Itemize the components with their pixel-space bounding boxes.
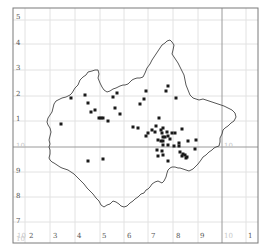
record-dot <box>143 98 146 101</box>
record-dot <box>112 96 115 99</box>
y-axis-label: 10 <box>16 236 25 243</box>
record-dot <box>137 127 140 130</box>
record-dot <box>162 144 165 147</box>
record-dot <box>167 160 170 163</box>
record-dot <box>145 90 148 93</box>
record-dot <box>107 120 110 123</box>
record-dot <box>94 109 97 112</box>
record-dot <box>154 131 157 134</box>
map-background <box>0 0 272 252</box>
record-dot <box>147 132 150 135</box>
record-dot <box>151 129 154 132</box>
y-axis-label: 4 <box>16 40 20 47</box>
distribution-map <box>0 0 272 252</box>
record-dot <box>165 90 168 93</box>
record-dot <box>139 103 142 106</box>
record-dot <box>157 139 160 142</box>
x-axis-label: 5 <box>102 233 106 240</box>
record-dot <box>162 140 165 143</box>
y-axis-label: 8 <box>16 193 20 200</box>
record-dot <box>181 128 184 131</box>
y-axis-label: 10 <box>16 143 25 150</box>
y-axis-label: 2 <box>16 91 20 98</box>
record-dot <box>70 97 73 100</box>
record-dot <box>155 125 158 128</box>
y-axis-label: 7 <box>16 218 20 225</box>
record-dot <box>167 85 170 88</box>
record-dot <box>116 92 119 95</box>
record-dot <box>194 148 197 151</box>
record-dot <box>90 111 93 114</box>
record-dot <box>102 117 105 120</box>
grid-label: 10 <box>224 143 233 150</box>
record-dot <box>157 155 160 158</box>
y-axis-label: 5 <box>16 14 20 21</box>
record-dot <box>174 132 177 135</box>
x-axis-label: 4 <box>77 233 81 240</box>
record-dot <box>184 154 187 157</box>
record-dot <box>164 136 167 139</box>
y-axis-label: 9 <box>16 168 20 175</box>
record-dot <box>119 113 122 116</box>
record-dot <box>132 126 135 129</box>
x-axis-label: 2 <box>29 233 33 240</box>
record-dot <box>178 145 181 148</box>
record-dot <box>156 149 159 152</box>
record-dot <box>169 138 172 141</box>
record-dot <box>179 151 182 154</box>
record-dot <box>114 107 117 110</box>
x-axis-label: 6 <box>127 233 131 240</box>
x-axis-label: 3 <box>53 233 57 240</box>
record-dot <box>161 150 164 153</box>
record-dot <box>166 131 169 134</box>
record-dot <box>195 139 198 142</box>
x-axis-label: 1 <box>248 233 252 240</box>
record-dot <box>175 97 178 100</box>
record-dot <box>167 135 170 138</box>
x-axis-label: 8 <box>176 233 180 240</box>
record-dot <box>173 145 176 148</box>
record-dot <box>161 132 164 135</box>
record-dot <box>102 158 105 161</box>
y-axis-label: 3 <box>16 65 20 72</box>
x-axis-label: 10 <box>224 233 233 240</box>
record-dot <box>158 117 161 120</box>
record-dot <box>187 140 190 143</box>
record-dot <box>87 102 90 105</box>
x-axis-label: 7 <box>151 233 155 240</box>
record-dot <box>84 94 87 97</box>
record-dot <box>178 142 181 145</box>
record-dot <box>162 127 165 130</box>
y-axis-label: 1 <box>16 116 20 123</box>
record-dot <box>145 135 148 138</box>
record-dot <box>162 154 165 157</box>
record-dot <box>167 144 170 147</box>
record-dot <box>60 123 63 126</box>
record-dot <box>87 160 90 163</box>
x-axis-label: 9 <box>200 233 204 240</box>
record-dot <box>171 132 174 135</box>
